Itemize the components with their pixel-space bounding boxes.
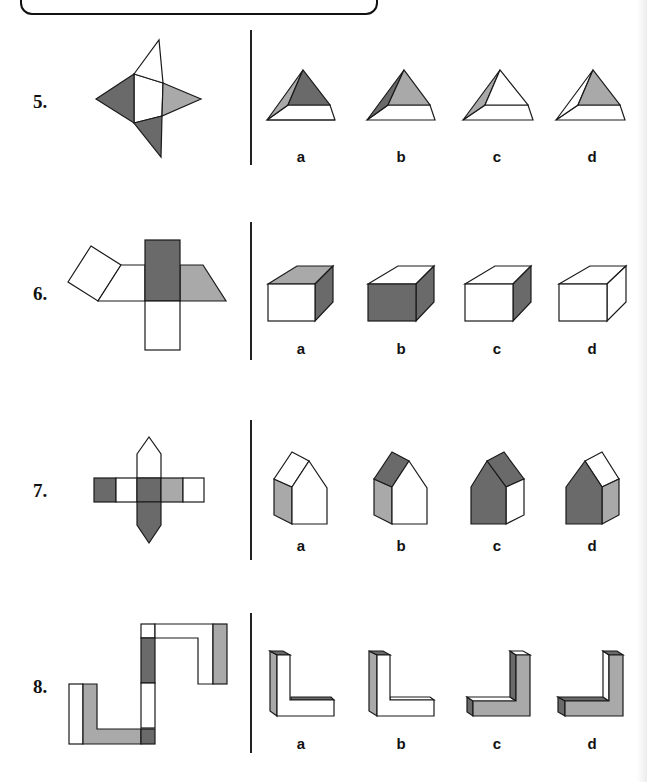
option-label-6b: b xyxy=(391,340,411,357)
option-8c[interactable] xyxy=(467,651,530,716)
option-label-5a: a xyxy=(291,148,311,165)
option-label-5b: b xyxy=(391,148,411,165)
option-7a[interactable] xyxy=(274,452,327,524)
figures xyxy=(0,0,647,782)
option-label-6c: c xyxy=(487,340,507,357)
option-label-6a: a xyxy=(291,340,311,357)
option-label-7c: c xyxy=(487,537,507,554)
option-label-7b: b xyxy=(391,537,411,554)
option-label-6d: d xyxy=(582,340,602,357)
option-5c[interactable] xyxy=(463,70,533,120)
option-5d[interactable] xyxy=(556,70,625,120)
option-8b[interactable] xyxy=(369,651,434,716)
option-label-8b: b xyxy=(391,735,411,752)
option-7b[interactable] xyxy=(374,452,427,524)
option-6a[interactable] xyxy=(268,266,333,321)
option-label-5d: d xyxy=(582,148,602,165)
net-8 xyxy=(69,624,227,744)
option-8d[interactable] xyxy=(558,651,623,716)
option-label-7a: a xyxy=(291,537,311,554)
option-8a[interactable] xyxy=(270,651,334,716)
net-5 xyxy=(96,40,201,157)
option-label-8d: d xyxy=(582,735,602,752)
net-6 xyxy=(68,240,226,350)
option-label-8a: a xyxy=(291,735,311,752)
option-6d[interactable] xyxy=(559,266,626,321)
option-6b[interactable] xyxy=(368,266,434,321)
option-6c[interactable] xyxy=(465,266,531,321)
option-label-8c: c xyxy=(487,735,507,752)
option-label-7d: d xyxy=(582,537,602,554)
option-7c[interactable] xyxy=(471,452,524,524)
option-5a[interactable] xyxy=(267,70,335,120)
option-7d[interactable] xyxy=(566,452,619,524)
option-5b[interactable] xyxy=(367,70,435,120)
net-7 xyxy=(94,437,204,543)
option-label-5c: c xyxy=(487,148,507,165)
